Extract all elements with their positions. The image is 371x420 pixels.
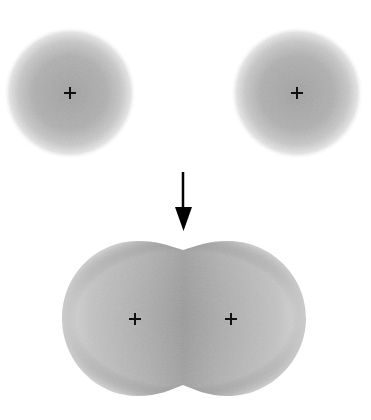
orbital-diagram bbox=[0, 0, 371, 420]
molecular-orbital bbox=[62, 241, 306, 396]
atom-right bbox=[231, 27, 363, 159]
arrow-down-icon bbox=[175, 172, 192, 231]
atom-left bbox=[4, 27, 136, 159]
